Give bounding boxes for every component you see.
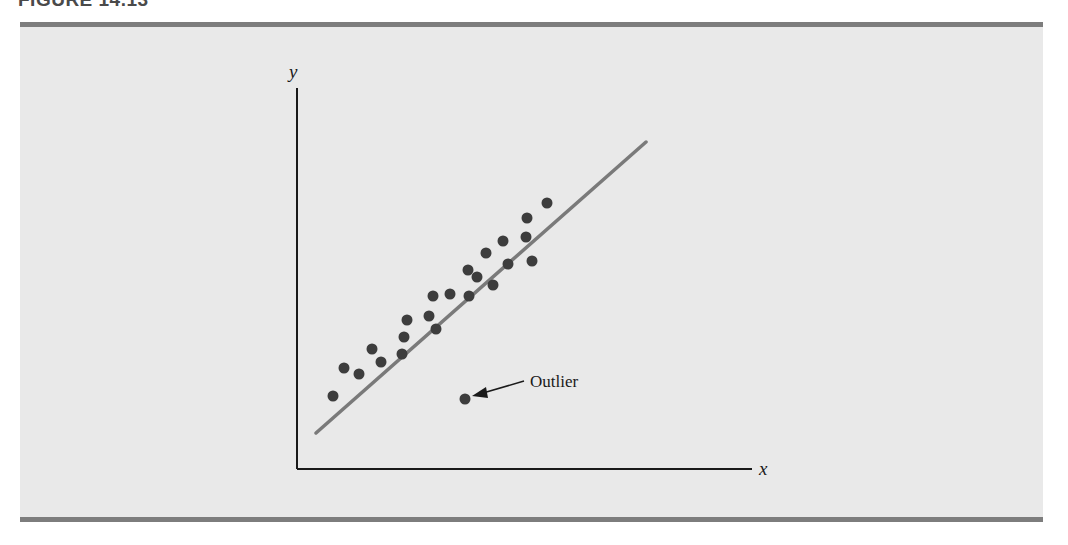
data-point [542,198,553,209]
data-point [397,349,408,360]
fitted-line [316,142,646,433]
data-points [328,198,553,402]
data-point [367,344,378,355]
outlier-annotation [460,381,525,405]
data-point [472,272,483,283]
data-point [339,363,350,374]
data-point [431,324,442,335]
data-point [527,256,538,267]
data-point [503,259,514,270]
regression-line [316,142,646,433]
data-point [402,315,413,326]
data-point [424,311,435,322]
data-point [464,291,475,302]
axes [297,88,752,469]
scatter-plot: y x Outlier [0,0,1068,545]
y-axis-label: y [287,61,298,82]
data-point [399,332,410,343]
outlier-point [460,394,471,405]
data-point [428,291,439,302]
data-point [354,369,365,380]
arrowhead-icon [472,387,488,398]
data-point [522,213,533,224]
data-point [488,280,499,291]
data-point [481,248,492,259]
data-point [376,357,387,368]
data-point [445,289,456,300]
data-point [463,265,474,276]
data-point [498,236,509,247]
data-point [328,391,339,402]
outlier-arrow-shaft [483,381,524,393]
outlier-label: Outlier [530,372,578,391]
x-axis-label: x [758,458,768,479]
data-point [521,232,532,243]
